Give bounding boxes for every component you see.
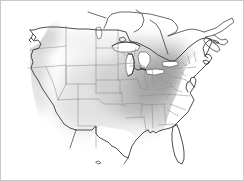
us-distribution-map-svg	[0, 0, 244, 181]
distribution-map-figure	[0, 0, 244, 181]
